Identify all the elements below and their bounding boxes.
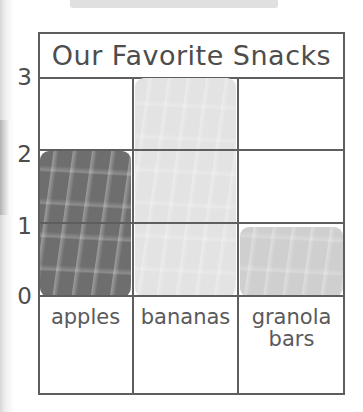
- label-divider-1: [132, 297, 134, 395]
- column-granola-bars: [238, 78, 345, 297]
- category-label-row: apples bananas granola bars: [38, 297, 345, 395]
- page-title: Our Favorite Snacks: [52, 40, 331, 71]
- y-axis-tick-1: 1: [10, 213, 32, 239]
- snacks-bar-chart: Our Favorite Snacks apple: [38, 32, 345, 395]
- category-cell-apples: apples: [38, 297, 133, 395]
- category-label-bananas: bananas: [141, 306, 231, 328]
- y-axis-tick-2: 2: [10, 141, 32, 167]
- column-apples: [38, 78, 133, 297]
- paper-page: 3 2 1 0 Our Favorite Snacks: [0, 0, 363, 412]
- bar-granola-bars: [240, 227, 343, 297]
- top-gray-strip: [70, 0, 278, 8]
- bar-apples: [40, 151, 131, 297]
- y-axis-tick-0: 0: [10, 283, 32, 309]
- gridline-value-1: [38, 222, 345, 224]
- y-axis-tick-3: 3: [10, 64, 32, 90]
- page-edge-shadow-notch: [0, 120, 10, 215]
- column-divider-1: [132, 78, 134, 297]
- chart-title-band: Our Favorite Snacks: [38, 32, 345, 78]
- bar-bananas: [135, 78, 236, 297]
- category-cell-granola-bars: granola bars: [238, 297, 345, 395]
- column-divider-2: [237, 78, 239, 297]
- category-label-apples: apples: [51, 306, 120, 328]
- gridline-value-2: [38, 149, 345, 151]
- label-divider-2: [237, 297, 239, 395]
- category-label-granola-bars: granola bars: [252, 306, 332, 350]
- column-bananas: [133, 78, 238, 297]
- category-cell-bananas: bananas: [133, 297, 238, 395]
- plot-area: [38, 78, 345, 297]
